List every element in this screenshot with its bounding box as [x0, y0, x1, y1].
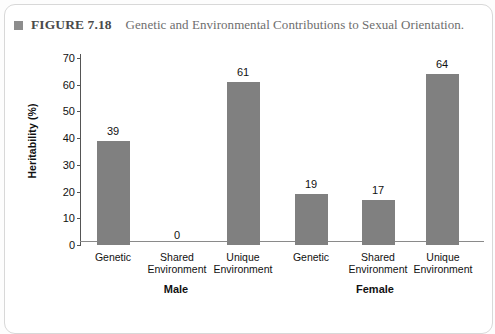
y-tick-mark-70	[77, 58, 81, 59]
x-label-line-1: Shared	[160, 251, 194, 263]
y-tick-label-70: 70	[45, 53, 75, 64]
y-tick-label-60: 60	[45, 80, 75, 91]
x-label-female-unique-environment: Unique Environment	[405, 251, 481, 275]
bar-female-unique-environment	[426, 74, 459, 245]
y-tick-mark-10	[77, 218, 81, 219]
bar-male-unique-environment	[227, 82, 260, 245]
y-tick-label-20: 20	[45, 187, 75, 198]
y-tick-mark-40	[77, 138, 81, 139]
y-tick-label-10: 10	[45, 213, 75, 224]
y-axis-title: Heritability (%)	[26, 71, 38, 211]
bar-value-female-genetic: 19	[291, 179, 331, 190]
y-tick-mark-30	[77, 165, 81, 166]
bar-value-male-genetic: 39	[93, 126, 133, 137]
group-label-female: Female	[315, 283, 435, 295]
group-label-male: Male	[116, 283, 236, 295]
x-label-line-2: Environment	[148, 263, 207, 275]
x-label-male-shared-environment: Shared Environment	[139, 251, 215, 275]
x-label-line-1: Unique	[226, 251, 259, 263]
y-tick-label-50: 50	[45, 106, 75, 117]
y-tick-mark-60	[77, 85, 81, 86]
bar-value-male-unique-environment: 61	[223, 67, 263, 78]
x-label-line-2: Environment	[414, 263, 473, 275]
bar-value-female-unique-environment: 64	[422, 59, 462, 70]
y-tick-mark-50	[77, 111, 81, 112]
x-axis-line	[80, 241, 484, 242]
bar-male-genetic	[97, 141, 130, 245]
y-tick-label-30: 30	[45, 160, 75, 171]
x-label-line-1: Genetic	[293, 251, 329, 263]
bar-value-male-shared-environment: 0	[157, 230, 197, 241]
y-tick-mark-0	[77, 245, 81, 246]
x-label-male-unique-environment: Unique Environment	[205, 251, 281, 275]
x-label-line-1: Unique	[426, 251, 459, 263]
y-tick-label-40: 40	[45, 133, 75, 144]
figure-card: FIGURE 7.18 Genetic and Environmental Co…	[4, 4, 493, 334]
x-label-line-2: Environment	[349, 263, 408, 275]
bar-female-genetic	[295, 194, 328, 245]
bar-chart: Heritability (%) 70 60 50 40 30 20 10 0 …	[5, 5, 493, 334]
y-tick-label-0: 0	[45, 240, 75, 251]
bar-female-shared-environment	[362, 200, 395, 245]
y-tick-mark-20	[77, 192, 81, 193]
x-label-line-1: Genetic	[95, 251, 131, 263]
x-label-female-genetic: Genetic	[273, 251, 349, 263]
x-label-line-2: Environment	[214, 263, 273, 275]
x-label-line-1: Shared	[361, 251, 395, 263]
bar-value-female-shared-environment: 17	[358, 185, 398, 196]
